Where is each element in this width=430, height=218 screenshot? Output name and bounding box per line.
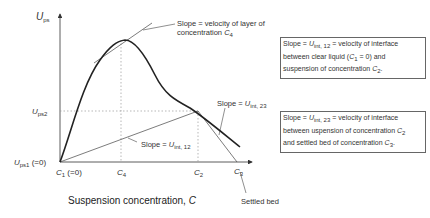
text: Slope =	[141, 140, 169, 149]
tangent-leader	[143, 24, 175, 30]
x-tick-subscript: 4	[123, 172, 126, 178]
y-tick-suffix: (=0)	[29, 158, 46, 167]
text: concentration	[177, 28, 224, 37]
text: suspension of concentration	[283, 65, 372, 72]
x-tick-subscript: 2	[200, 172, 203, 178]
tangent-slope-line1: Slope = velocity of layer of	[177, 19, 265, 28]
tangent-slope-annotation: Slope = velocity of layer of concentrati…	[177, 19, 265, 40]
x-axis-title: Suspension concentration, C	[68, 195, 196, 206]
box1-line1: Slope = Uint, 12 = velocity of interface	[283, 39, 423, 52]
x-tick-c1: C1 (=0)	[56, 168, 82, 180]
box1-line2: between clear liquid (C1 = 0) and	[283, 52, 423, 65]
slope-12-annotation: Slope = Uint, 12	[141, 140, 191, 152]
y-tick-subscript: ps2	[38, 111, 48, 117]
text: = velocity of interface	[330, 40, 398, 47]
text: .	[393, 139, 395, 146]
text: Slope =	[217, 99, 245, 108]
text: = 0) and	[358, 53, 386, 60]
interface-12-box: Slope = Uint, 12 = velocity of interface…	[280, 37, 426, 79]
sub: int, 12	[174, 144, 190, 150]
text: and settled bed of concentration	[283, 139, 385, 146]
x-axis-title-text: Suspension concentration,	[68, 195, 189, 206]
box2-line3: and settled bed of concentration C3.	[283, 138, 423, 151]
sub: 4	[230, 32, 233, 38]
interface-23-box: Slope = Uint, 23 = velocity of interface…	[280, 111, 426, 153]
y-axis-subscript: ps	[43, 17, 49, 23]
y-tick-ups1: Ups1 (=0)	[14, 158, 46, 170]
y-axis-label: Ups	[36, 12, 50, 25]
box1-line3: suspension of concentration C2.	[283, 64, 423, 77]
text: Slope =	[283, 40, 309, 47]
x-tick-c2: C2	[194, 168, 203, 180]
text: between uspension of concentration	[283, 127, 397, 134]
box2-line1: Slope = Uint, 23 = velocity of interface	[283, 113, 423, 126]
tangent-slope-line2: concentration C4	[177, 28, 265, 40]
sub: int, 23	[250, 103, 266, 109]
box2-line2: between uspension of concentration C2	[283, 126, 423, 139]
slope-12-leader	[128, 138, 137, 142]
y-tick-ups2: Ups2	[32, 107, 47, 119]
settled-bed-label: Settled bed	[241, 197, 279, 206]
text: .	[381, 65, 383, 72]
x-tick-c4: C4	[117, 168, 126, 180]
sub: int, 23	[314, 117, 330, 123]
slope-12-line	[60, 111, 198, 162]
text: between clear liquid (	[283, 53, 349, 60]
x-tick-c3: C3	[234, 167, 243, 179]
sub: 2	[402, 130, 405, 136]
x-axis-title-var: C	[189, 195, 196, 206]
x-tick-suffix: (=0)	[65, 168, 82, 177]
text: Slope =	[283, 114, 309, 121]
text: = velocity of interface	[330, 114, 398, 121]
sub: int, 12	[314, 43, 330, 49]
slope-23-annotation: Slope = Uint, 23	[217, 99, 267, 111]
x-tick-subscript: 3	[240, 171, 243, 177]
